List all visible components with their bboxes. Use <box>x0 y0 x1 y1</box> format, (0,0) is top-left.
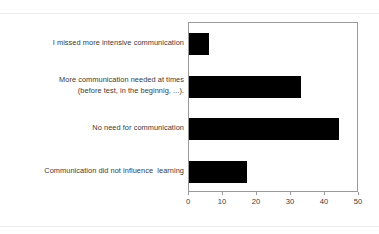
x-axis-tick-mark <box>188 192 189 195</box>
bar <box>189 161 247 183</box>
category-label-line: I missed more intensive communication <box>53 38 184 47</box>
x-axis-tick-label: 20 <box>244 197 268 207</box>
x-axis-tick-label: 50 <box>346 197 370 207</box>
x-axis-tick-mark <box>222 192 223 195</box>
category-label: More communication needed at times(befor… <box>8 75 184 96</box>
category-label: I missed more intensive communication <box>8 38 184 49</box>
category-label-line: No need for communication <box>92 123 184 132</box>
category-label-line: More communication needed at times <box>59 75 184 84</box>
plot-frame <box>188 22 358 192</box>
x-axis: 01020304050 <box>188 192 358 212</box>
x-axis-tick-label: 10 <box>210 197 234 207</box>
bar <box>189 33 209 55</box>
scan-artifact-line-top <box>0 13 379 14</box>
scan-artifact-line-bottom <box>0 226 379 227</box>
category-label-column: I missed more intensive communicationMor… <box>8 22 184 192</box>
x-axis-tick-label: 40 <box>312 197 336 207</box>
category-label-line: (before test, in the beginnig, ...). <box>8 86 184 97</box>
bar-chart-figure: I missed more intensive communicationMor… <box>0 0 379 234</box>
x-axis-tick-mark <box>324 192 325 195</box>
x-axis-tick-mark <box>358 192 359 195</box>
category-label: No need for communication <box>8 123 184 134</box>
x-axis-tick-label: 0 <box>176 197 200 207</box>
x-axis-tick-mark <box>290 192 291 195</box>
category-label-line: Communication did not influence learning <box>44 166 184 175</box>
bar <box>189 76 301 98</box>
category-label: Communication did not influence learning <box>8 166 184 177</box>
x-axis-tick-label: 30 <box>278 197 302 207</box>
x-axis-tick-mark <box>256 192 257 195</box>
plot-area <box>189 23 357 191</box>
bar <box>189 118 339 140</box>
